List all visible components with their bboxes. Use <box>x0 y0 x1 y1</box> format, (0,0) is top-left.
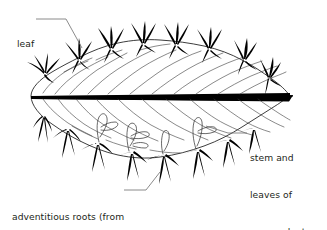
stem-and-leaves-label: stem and leaves of young plant <box>250 127 305 230</box>
adventitious-roots-label: adventitious roots (from adventitious bu… <box>12 186 124 230</box>
roots-label-line-1: adventitious roots (from <box>12 211 124 223</box>
stem-label-line-2: leaves of <box>250 189 305 201</box>
leaf-label-line-1: leaf <box>17 38 34 50</box>
leaf-label: leaf <box>17 13 34 63</box>
leader-line-roots <box>124 172 160 190</box>
leader-line-leaf <box>36 19 82 48</box>
stem-label-line-3: young plant <box>250 226 305 230</box>
stem-label-line-1: stem and <box>250 152 305 164</box>
